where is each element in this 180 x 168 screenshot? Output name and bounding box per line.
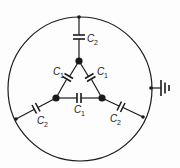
svg-text:2: 2 bbox=[94, 39, 98, 46]
inner-node-right bbox=[98, 94, 105, 101]
svg-text:2: 2 bbox=[117, 119, 121, 126]
capacitor-c2-left bbox=[16, 98, 56, 119]
outer-node-right bbox=[141, 115, 145, 119]
capacitor-c2-right bbox=[102, 98, 143, 117]
outer-node-left bbox=[14, 117, 18, 121]
svg-text:1: 1 bbox=[81, 110, 85, 117]
circuit-diagram: C 2 C 1 C 1 C 1 C 2 C 2 bbox=[0, 0, 180, 168]
capacitor-c2-top bbox=[73, 17, 85, 61]
inner-node-top bbox=[75, 57, 82, 64]
label-c1-left: C 1 bbox=[53, 66, 64, 79]
label-c2-top: C 2 bbox=[87, 33, 98, 46]
label-c2-left: C 2 bbox=[37, 115, 48, 128]
ground-icon bbox=[151, 80, 169, 96]
outer-node-ground bbox=[149, 86, 153, 90]
svg-text:1: 1 bbox=[60, 72, 64, 79]
label-c1-right: C 1 bbox=[97, 66, 108, 79]
capacitor-c1-bottom bbox=[56, 93, 102, 103]
svg-text:1: 1 bbox=[104, 72, 108, 79]
svg-text:2: 2 bbox=[44, 121, 48, 128]
outer-node-top bbox=[77, 15, 81, 19]
circuit-svg: C 2 C 1 C 1 C 1 C 2 C 2 bbox=[0, 0, 180, 168]
label-c2-right: C 2 bbox=[110, 113, 121, 126]
inner-node-left bbox=[52, 94, 59, 101]
label-c1-bottom: C 1 bbox=[74, 104, 85, 117]
